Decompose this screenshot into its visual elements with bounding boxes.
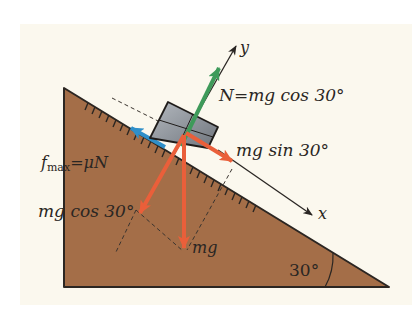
normal-lhs: N: [218, 85, 235, 105]
angle-label: 30°: [289, 260, 319, 280]
normal-force-label: N=mg cos 30°: [218, 85, 345, 105]
friction-rhs: μN: [84, 153, 109, 172]
x-axis-label: x: [318, 204, 327, 223]
normal-rhs: mg cos 30°: [248, 85, 344, 105]
incline-diagram: y x N=mg cos 30° mg sin 30° fmax=μN mg c…: [0, 0, 420, 319]
mg-label: mg: [192, 238, 217, 257]
normal-eq: =: [234, 85, 248, 105]
friction-eq: =: [70, 153, 83, 172]
y-axis-label: y: [239, 38, 250, 57]
friction-sub: max: [47, 161, 71, 174]
mg-sin-label: mg sin 30°: [236, 140, 329, 160]
mg-cos-label: mg cos 30°: [38, 201, 134, 221]
